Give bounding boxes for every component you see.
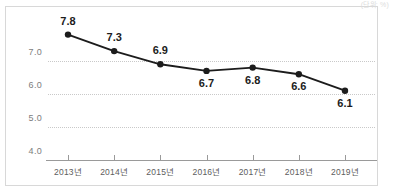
data-point-label: 6.7: [199, 77, 214, 89]
x-axis-tick-label: 2017년: [239, 165, 267, 177]
y-axis-tick-label: 6.0: [29, 80, 42, 90]
x-axis-tick-label: 2015년: [146, 165, 174, 177]
gridline: [48, 94, 375, 95]
gridline: [48, 61, 375, 62]
gridline: [48, 127, 375, 128]
chart-card: (단위: %) 7.06.05.04.0 2013년2014년2015년2016…: [0, 0, 395, 194]
x-axis-tick: [68, 155, 69, 160]
x-axis-tick: [160, 155, 161, 160]
y-axis-tick-label: 5.0: [29, 113, 42, 123]
x-axis-tick: [299, 155, 300, 160]
x-axis-tick-label: 2019년: [331, 165, 359, 177]
x-axis-tick-label: 2016년: [193, 165, 221, 177]
x-axis-tick-label: 2018년: [285, 165, 313, 177]
x-axis-tick: [345, 155, 346, 160]
x-axis-tick: [207, 155, 208, 160]
unit-note-label: (단위: %): [361, 0, 389, 9]
data-point-label: 6.6: [291, 80, 306, 92]
x-axis-tick-label: 2013년: [54, 165, 82, 177]
x-axis-tick-label: 2014년: [100, 165, 128, 177]
data-point-label: 7.3: [107, 31, 122, 43]
data-point-label: 6.9: [153, 44, 168, 56]
x-axis-tick: [114, 155, 115, 160]
data-point-label: 6.1: [337, 97, 352, 109]
y-axis-tick-label: 7.0: [29, 47, 42, 57]
data-point-label: 7.8: [60, 15, 75, 27]
x-axis-tick: [253, 155, 254, 160]
y-axis-label-group: 7.06.05.04.0: [0, 0, 46, 194]
data-point-label: 6.8: [245, 74, 260, 86]
y-axis-tick-label: 4.0: [29, 146, 42, 156]
x-axis-line: [46, 160, 377, 161]
